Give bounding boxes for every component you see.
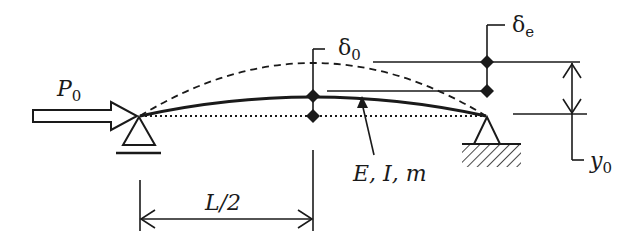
- delta0-label: δ0: [338, 35, 361, 64]
- diamond-marker-icon: [306, 109, 320, 123]
- y0-dimension: [563, 63, 584, 160]
- axial-load-arrow: [33, 102, 137, 130]
- half-span-label: L/2: [204, 190, 241, 215]
- deltae-label: δe: [512, 12, 534, 41]
- midspan-deflection-marker: [306, 49, 325, 123]
- load-label: P0: [56, 76, 81, 105]
- diamond-marker-icon: [480, 55, 494, 69]
- diamond-marker-icon: [306, 89, 320, 103]
- properties-label: E, I, m: [352, 161, 427, 186]
- beam-column-diagram: P0 δ0 δe: [0, 0, 640, 247]
- properties-leader: [357, 96, 374, 155]
- y0-label: y0: [589, 148, 612, 177]
- diamond-marker-icon: [480, 84, 494, 98]
- right-support: [462, 117, 521, 167]
